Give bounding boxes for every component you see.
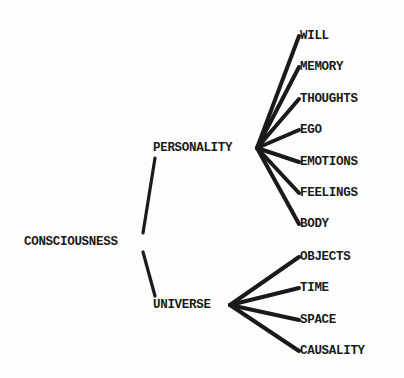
node-feelings: FEELINGS [300,186,358,200]
node-body: BODY [300,217,329,231]
node-personality: PERSONALITY [153,141,232,155]
node-space: SPACE [300,313,336,327]
node-ego: EGO [300,123,322,137]
edge [143,252,155,296]
node-objects: OBJECTS [300,250,350,264]
node-thoughts: THOUGHTS [300,92,358,106]
node-universe: UNIVERSE [153,298,211,312]
node-will: WILL [300,29,329,43]
tree-diagram: CONSCIOUSNESS PERSONALITY WILL MEMORY TH… [0,0,404,378]
node-emotions: EMOTIONS [300,155,358,169]
node-memory: MEMORY [300,60,343,74]
node-causality: CAUSALITY [300,344,365,358]
node-time: TIME [300,281,329,295]
edge [143,158,155,233]
node-consciousness: CONSCIOUSNESS [24,235,118,249]
